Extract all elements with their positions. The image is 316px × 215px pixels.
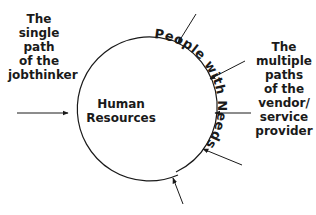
human-resources-label: Human Resources (80, 97, 162, 125)
label-line: Human (80, 97, 162, 111)
label-line: vendor/ (252, 96, 316, 110)
label-line: single (8, 26, 70, 40)
label-line: The (252, 40, 316, 54)
label-line: of the (252, 82, 316, 96)
jobthinker-label: The single path of the jobthinker (8, 12, 70, 82)
vendor-arrow-4 (203, 149, 242, 165)
label-line: jobthinker (8, 68, 70, 82)
label-line: service (252, 110, 316, 124)
vendor-arrow-5 (173, 178, 183, 204)
label-line: provider (252, 124, 316, 138)
label-line: multiple (252, 54, 316, 68)
arc-text: People with Needs (154, 26, 230, 152)
vendor-label: The multiple paths of the vendor/ servic… (252, 40, 316, 138)
label-line: The (8, 12, 70, 26)
label-line: paths (252, 68, 316, 82)
label-line: of the (8, 54, 70, 68)
label-line: Resources (80, 111, 162, 125)
label-line: path (8, 40, 70, 54)
